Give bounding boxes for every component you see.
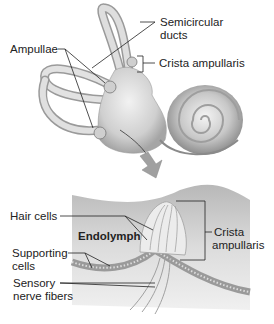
label-supporting-2: cells xyxy=(12,260,35,272)
label-semicircular-ducts-2: ducts xyxy=(160,29,188,41)
label-sensory-1: Sensory xyxy=(13,277,55,289)
label-endolymph: Endolymph xyxy=(78,230,141,242)
label-supporting-1: Supporting xyxy=(12,247,68,259)
label-crista-2: ampullaris xyxy=(212,239,264,251)
label-semicircular-ducts-1: Semicircular xyxy=(160,16,223,28)
label-sensory-2: nerve fibers xyxy=(13,290,73,302)
zoom-arrow xyxy=(140,152,162,178)
label-crista-ampullaris-top: Crista ampullaris xyxy=(159,57,245,69)
label-ampullae: Ampullae xyxy=(10,43,58,55)
label-crista-1: Crista xyxy=(214,226,244,238)
cochlea xyxy=(160,85,243,155)
label-hair-cells: Hair cells xyxy=(10,210,57,222)
